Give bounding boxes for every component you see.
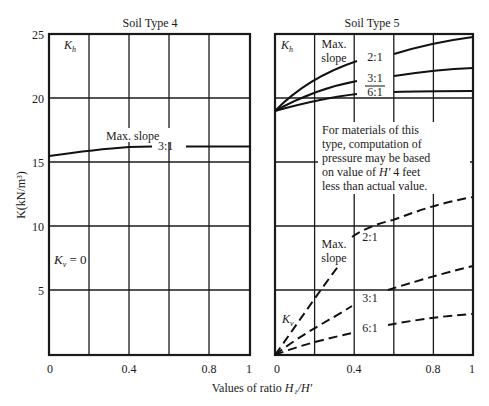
svg-text:on value of H′ 4 feet: on value of H′ 4 feet (322, 165, 421, 179)
grid-left (49, 34, 250, 355)
ratio-6-1-kh: 6:1 (367, 85, 382, 99)
y-axis-label: K(kN/m³) (14, 171, 28, 219)
ratio-3-1-label-left: 3:1 (158, 139, 173, 153)
xtick-left-0-4: 0.4 (122, 362, 137, 376)
ratio-2-1-kh: 2:1 (367, 50, 382, 64)
ytick-5: 5 (38, 284, 44, 298)
ratio-6-1-kv: 6:1 (362, 321, 377, 335)
ratio-3-1-kh: 3:1 (367, 71, 382, 85)
svg-text:For materials of this: For materials of this (322, 123, 419, 137)
max-slope-label-left: Max. slope (106, 129, 159, 143)
ratio-2-1-kv: 2:1 (362, 230, 377, 244)
xtick-right-0: 0 (274, 362, 280, 376)
plot-frame-left (49, 34, 250, 355)
kv-label-right: Kv (281, 312, 294, 328)
curve-kv-3-1 (275, 266, 473, 355)
svg-text:type, computation of: type, computation of (322, 137, 422, 151)
xtick-right-1: 1 (469, 362, 475, 376)
slope-label-kh: slope (321, 51, 346, 65)
kh-label-right: Kh (280, 38, 293, 54)
curve-kh-3-1-soil4 (49, 147, 250, 157)
kh-label-left: Kh (63, 38, 76, 54)
chart-canvas: Kh Max. slope 3:1 Kv = 0 Soil Type 4 25 … (0, 0, 489, 406)
ratio-3-1-kv: 3:1 (362, 291, 377, 305)
panel-soil-type-5: Kh Max. slope 2:1 3:1 6:1 For materials … (274, 16, 475, 376)
xtick-left-0: 0 (47, 362, 53, 376)
xtick-right-0-4: 0.4 (347, 362, 362, 376)
slope-label-kv: slope (321, 251, 346, 265)
panel-soil-type-4: Kh Max. slope 3:1 Kv = 0 Soil Type 4 25 … (14, 16, 252, 376)
svg-text:pressure may be based: pressure may be based (322, 151, 430, 165)
xtick-left-0-8: 0.8 (202, 362, 217, 376)
note-text: For materials of this type, computation … (322, 123, 430, 193)
max-label-kv: Max. (322, 237, 347, 251)
ytick-10: 10 (32, 220, 44, 234)
xtick-right-0-8: 0.8 (426, 362, 441, 376)
ytick-25: 25 (32, 28, 44, 42)
title-soil-type-4: Soil Type 4 (123, 16, 178, 30)
ytick-15: 15 (32, 156, 44, 170)
x-axis-label: Values of ratio H₁/H′ (212, 381, 313, 395)
max-label-kh: Max. (322, 37, 347, 51)
xtick-left-1: 1 (246, 362, 252, 376)
ytick-20: 20 (32, 92, 44, 106)
svg-text:less than actual value.: less than actual value. (322, 179, 427, 193)
title-soil-type-5: Soil Type 5 (345, 16, 400, 30)
kv-zero-label: Kv = 0 (53, 252, 87, 269)
